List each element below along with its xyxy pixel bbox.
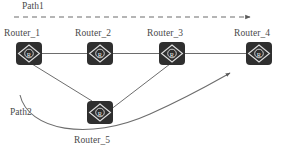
router-node-5[interactable]: R (87, 101, 113, 124)
router-2-label: Router_2 (75, 28, 111, 38)
router-3-label: Router_3 (147, 28, 183, 38)
path1-label: Path1 (22, 1, 44, 11)
router-5-label: Router_5 (74, 135, 110, 145)
svg-text:R: R (170, 51, 175, 58)
path2-label: Path2 (10, 107, 32, 117)
diagram-canvas: R R R R R (0, 0, 286, 154)
router-node-3[interactable]: R (159, 42, 185, 65)
svg-text:R: R (98, 51, 103, 58)
link-r5-r3 (110, 64, 170, 110)
router-node-1[interactable]: R (16, 42, 42, 65)
router-1-label: Router_1 (4, 28, 40, 38)
router-node-2[interactable]: R (87, 42, 113, 65)
svg-text:R: R (98, 110, 103, 117)
path2-curve-line (20, 73, 230, 130)
router-4-label: Router_4 (234, 28, 270, 38)
router-node-4[interactable]: R (246, 42, 272, 65)
link-r1-r5 (32, 64, 92, 101)
network-diagram: R R R R R Path1 Router_1 Rout (0, 0, 286, 154)
svg-text:R: R (27, 51, 32, 58)
svg-text:R: R (257, 51, 262, 58)
